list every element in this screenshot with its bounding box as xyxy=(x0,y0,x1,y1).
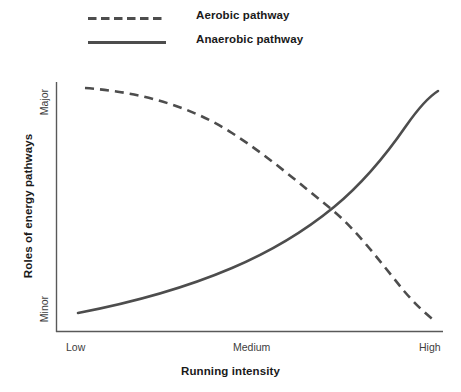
y-tick-label-major: Major xyxy=(38,75,50,129)
x-tick-label-high: High xyxy=(419,341,441,353)
chart-figure: Aerobic pathway Anaerobic pathway Roles … xyxy=(0,0,461,392)
x-tick-label-medium: Medium xyxy=(233,341,270,353)
y-axis-title: Roles of energy pathways xyxy=(22,96,34,316)
x-axis-title: Running intensity xyxy=(0,365,461,377)
plot-svg xyxy=(0,0,461,392)
y-tick-label-minor: Minor xyxy=(38,282,50,336)
series-line-aerobic xyxy=(85,88,435,321)
plot-area xyxy=(0,0,461,392)
series-line-anaerobic xyxy=(78,91,438,313)
x-tick-label-low: Low xyxy=(66,341,85,353)
